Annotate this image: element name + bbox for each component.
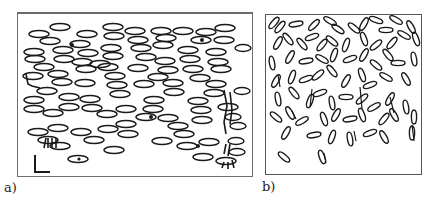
panel-b-particles xyxy=(266,15,421,174)
panel-a-particles xyxy=(18,14,252,176)
panel-b-frame xyxy=(265,14,422,175)
panel-a-label: a) xyxy=(4,181,17,194)
panel-b-label: b) xyxy=(262,180,275,193)
panel-a-frame xyxy=(17,12,253,177)
